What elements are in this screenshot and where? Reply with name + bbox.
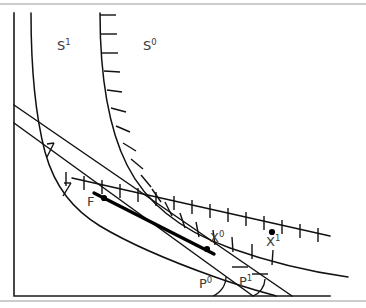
- frontier-ray-group: [66, 172, 330, 274]
- point-x0-marker: [204, 246, 210, 252]
- label-curve-s1: S1: [57, 37, 71, 53]
- label-angle-p0: P0: [199, 275, 212, 291]
- label-point-x1: X1: [266, 233, 280, 249]
- label-curve-s0: S0: [143, 37, 157, 53]
- economics-diagram-figure: S1 S0 F X0 X1 P0 P1: [0, 0, 366, 308]
- label-point-x0: X0: [210, 229, 224, 245]
- angle-mark-p1: [253, 279, 265, 296]
- diagram-canvas: S1 S0 F X0 X1 P0 P1: [0, 0, 366, 308]
- curve-s1: [31, 13, 276, 296]
- budget-line-p0-group: [14, 105, 292, 296]
- point-f-marker: [101, 195, 107, 201]
- label-angle-p1: P1: [239, 273, 252, 289]
- budget-line-p0: [14, 105, 292, 296]
- axes: [14, 13, 330, 296]
- curve-s1-group: [31, 13, 276, 296]
- frontier-ray: [72, 178, 330, 236]
- label-point-f: F: [87, 194, 94, 209]
